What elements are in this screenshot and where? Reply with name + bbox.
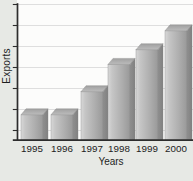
bar-1998 — [108, 58, 135, 140]
x-tick-label-1997: 1997 — [78, 144, 106, 154]
x-tick-label-1995: 1995 — [18, 144, 46, 154]
bar-chart-figure: Exports Years 199519961997199819992000 — [0, 0, 193, 181]
bar-2000 — [165, 25, 192, 140]
x-axis-label: Years — [83, 156, 139, 167]
x-tick-label-2000: 2000 — [162, 144, 190, 154]
x-tick-label-1998: 1998 — [105, 144, 133, 154]
bar-1997 — [81, 86, 108, 140]
bar-1995 — [21, 109, 48, 140]
bar-1996 — [51, 109, 78, 140]
x-tick-label-1999: 1999 — [133, 144, 161, 154]
y-axis-label: Exports — [1, 36, 13, 96]
bar-1999 — [136, 44, 163, 140]
x-tick-label-1996: 1996 — [48, 144, 76, 154]
